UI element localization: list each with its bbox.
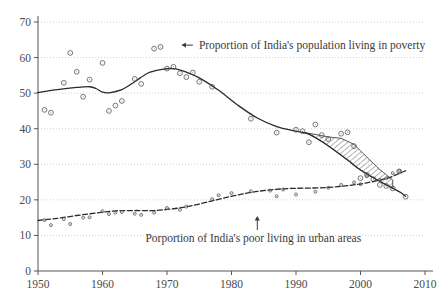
poverty-annotation-label: Proportion of India's population living … (199, 39, 426, 52)
data-point-center (354, 146, 355, 147)
data-point-center (296, 194, 297, 195)
poverty-series (38, 45, 408, 200)
data-point-center (134, 78, 135, 79)
data-point-center (367, 176, 368, 177)
data-point-center (160, 46, 161, 47)
y-tick-label: 20 (20, 194, 32, 206)
y-tick-label: 0 (25, 265, 31, 277)
data-point-center (328, 187, 329, 188)
data-point-center (89, 79, 90, 80)
data-point-center (102, 62, 103, 63)
x-tick-label: 1980 (220, 278, 243, 290)
y-tick-label: 30 (20, 158, 32, 170)
up-arrow-icon (255, 216, 260, 221)
data-point-center (109, 110, 110, 111)
x-tick-label: 1970 (156, 278, 179, 290)
data-point-center (179, 209, 180, 210)
data-point-center (167, 208, 168, 209)
data-point-center (192, 72, 193, 73)
data-point-center (347, 132, 348, 133)
data-point-center (360, 184, 361, 185)
y-axis: 010203040506070 (20, 16, 39, 277)
data-point-center (134, 213, 135, 214)
annotations: Proportion of India's population living … (145, 39, 425, 245)
data-point-center (83, 217, 84, 218)
data-point-center (109, 214, 110, 215)
urban-series (38, 170, 406, 227)
data-point-center (186, 77, 187, 78)
data-point-center (50, 225, 51, 226)
y-tick-label: 70 (20, 16, 32, 28)
data-point-center (173, 66, 174, 67)
x-tick-label: 2000 (349, 278, 372, 290)
data-point-center (296, 129, 297, 130)
data-point-center (405, 196, 406, 197)
data-point-center (218, 195, 219, 196)
data-point-center (199, 81, 200, 82)
data-point-center (392, 188, 393, 189)
data-point-center (89, 217, 90, 218)
data-point-center (63, 82, 64, 83)
data-point-center (141, 83, 142, 84)
data-point-center (83, 96, 84, 97)
urban-annotation-label: Porportion of India's poor living in urb… (145, 232, 361, 245)
data-point-center (70, 224, 71, 225)
chart-container: 010203040506070 195019601970198019902000… (0, 0, 443, 300)
data-point-center (212, 199, 213, 200)
data-point-center (360, 178, 361, 179)
data-point-center (179, 73, 180, 74)
data-point-center (76, 71, 77, 72)
data-point-center (315, 191, 316, 192)
data-point-center (392, 173, 393, 174)
data-point-center (250, 118, 251, 119)
data-point-center (399, 171, 400, 172)
data-point-center (231, 193, 232, 194)
data-point-center (44, 109, 45, 110)
left-arrow-icon (182, 43, 186, 48)
data-point-center (141, 214, 142, 215)
y-tick-label: 10 (20, 229, 32, 241)
x-tick-label: 1960 (91, 278, 114, 290)
data-point-center (321, 135, 322, 136)
grid-lines (38, 22, 425, 235)
data-point-center (121, 101, 122, 102)
data-point-center (115, 105, 116, 106)
data-point-center (154, 212, 155, 213)
x-tick-label: 2010 (414, 278, 437, 290)
data-point-center (44, 220, 45, 221)
data-point-center (276, 196, 277, 197)
data-point-center (386, 178, 387, 179)
data-point-center (186, 206, 187, 207)
data-point-center (341, 184, 342, 185)
x-tick-label: 1990 (285, 278, 308, 290)
data-point-center (354, 182, 355, 183)
data-point-center (50, 112, 51, 113)
data-point-center (250, 191, 251, 192)
data-point-center (276, 132, 277, 133)
data-point-center (283, 189, 284, 190)
data-point-center (379, 184, 380, 185)
y-tick-label: 60 (20, 52, 32, 64)
x-axis: 1950196019701980199020002010 (27, 271, 437, 290)
data-point-center (154, 48, 155, 49)
x-tick-label: 1950 (27, 278, 50, 290)
data-point-center (115, 212, 116, 213)
data-point-center (373, 179, 374, 180)
trend-line (38, 171, 406, 221)
trend-line (38, 68, 406, 196)
data-point-center (341, 133, 342, 134)
data-point-center (379, 179, 380, 180)
data-point-center (167, 68, 168, 69)
data-point-center (315, 124, 316, 125)
poverty-urban-scatter-chart: 010203040506070 195019601970198019902000… (0, 0, 443, 300)
data-point-center (63, 219, 64, 220)
data-point-center (70, 53, 71, 54)
y-tick-label: 40 (20, 123, 32, 135)
data-point-center (328, 139, 329, 140)
y-tick-label: 50 (20, 87, 32, 99)
data-point-center (386, 186, 387, 187)
data-point-center (102, 211, 103, 212)
data-point-center (212, 86, 213, 87)
data-point-center (302, 131, 303, 132)
data-point-center (121, 212, 122, 213)
